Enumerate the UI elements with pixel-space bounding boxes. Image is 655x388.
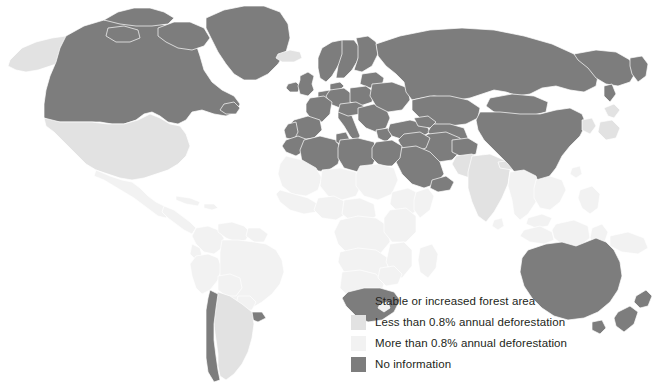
legend-item-more-than[interactable]: More than 0.8% annual deforestation [351,333,611,354]
country-japan-honshu [598,120,620,140]
country-kenya-tanzania [384,208,416,242]
country-new-zealand-north [634,290,652,308]
legend-swatch-less-than [351,315,366,330]
country-nigeria [314,196,346,220]
country-central-america [162,206,196,234]
legend-label-stable: Stable or increased forest area [375,296,535,308]
region-asia [376,28,648,256]
country-cuba [176,196,200,206]
legend-swatch-stable [351,294,366,309]
country-hispaniola [204,204,218,210]
legend-item-less-than[interactable]: Less than 0.8% annual deforestation [351,312,611,333]
country-sakhalin [604,84,616,102]
country-russia [376,28,598,100]
legend-item-no-information[interactable]: No information [351,354,611,375]
legend-label-less-than: Less than 0.8% annual deforestation [375,317,565,329]
country-new-zealand-south [614,306,638,332]
country-greenland [206,6,290,80]
country-united-kingdom [298,72,314,96]
legend-item-stable[interactable]: Stable or increased forest area [351,291,611,312]
country-indochina [534,176,566,210]
country-sri-lanka [492,218,504,230]
country-madagascar [418,244,438,278]
region-south-america [190,222,284,382]
country-korea [582,118,596,134]
country-philippines [578,186,600,214]
country-japan [604,104,620,118]
country-papua-new-guinea [610,232,648,254]
country-guianas [246,228,268,242]
region-north-america [8,6,302,234]
legend-label-more-than: More than 0.8% annual deforestation [375,338,567,350]
country-bolivia [218,274,242,296]
legend-label-no-information: No information [375,359,451,371]
legend-swatch-more-than [351,336,366,351]
country-united-states [44,114,190,180]
country-taiwan [570,166,582,178]
country-somalia [414,188,434,218]
country-borneo [552,220,590,246]
country-sumatra [520,226,554,244]
country-peru [190,254,222,294]
legend: Stable or increased forest area Less tha… [351,291,611,375]
legend-swatch-no-information [351,357,366,372]
world-deforestation-figure: Stable or increased forest area Less tha… [0,0,655,388]
